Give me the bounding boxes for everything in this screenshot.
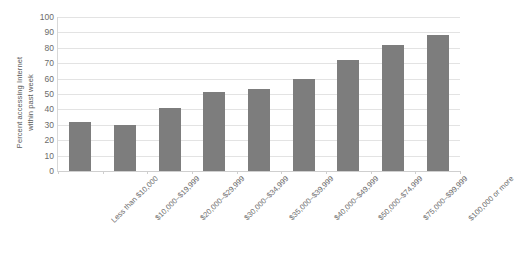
y-axis-tick-label: 30: [26, 121, 54, 130]
bar: [114, 125, 136, 171]
bar: [248, 89, 270, 171]
x-axis-tick-label: $75,000–$99,999: [421, 174, 469, 222]
y-axis-tick-label: 60: [26, 75, 54, 84]
x-axis-tick-label: $50,000–$74,999: [377, 174, 425, 222]
bar-series: [58, 17, 460, 171]
bar: [203, 92, 225, 171]
x-axis-tick-label: $40,000–$49,999: [332, 174, 380, 222]
x-axis-tick-label: $100,000 or more: [466, 174, 515, 223]
x-axis-tick-label: $35,000–$39,999: [287, 174, 335, 222]
bar: [427, 35, 449, 171]
x-axis-tick-label: Less than $10,000: [110, 174, 161, 225]
y-axis-tick-label: 100: [26, 13, 54, 22]
x-axis-tick-label: $20,000–$29,999: [198, 174, 246, 222]
y-axis-tick-label: 0: [26, 167, 54, 176]
y-axis-tick-label: 20: [26, 136, 54, 145]
y-axis-tick-label: 90: [26, 28, 54, 37]
y-axis-tick-label: 40: [26, 105, 54, 114]
bar: [159, 108, 181, 171]
x-axis-tick-label: $10,000–$19,999: [153, 174, 201, 222]
bar: [382, 45, 404, 171]
y-axis-title-line-1: Percent accessing Internet: [14, 57, 25, 148]
y-axis-tick-label: 50: [26, 90, 54, 99]
x-axis-tick-mark: [460, 171, 461, 174]
x-axis-tick-label: $30,000–$34,999: [243, 174, 291, 222]
y-axis-tick-label: 10: [26, 152, 54, 161]
bar: [293, 79, 315, 171]
x-axis-line: [58, 171, 460, 172]
x-axis-tick-labels: Less than $10,000$10,000–$19,999$20,000–…: [58, 174, 460, 262]
y-axis-tick-labels: 0102030405060708090100: [26, 17, 54, 171]
bar: [337, 60, 359, 171]
bar: [69, 122, 91, 171]
y-axis-tick-label: 70: [26, 59, 54, 68]
y-axis-tick-label: 80: [26, 44, 54, 53]
